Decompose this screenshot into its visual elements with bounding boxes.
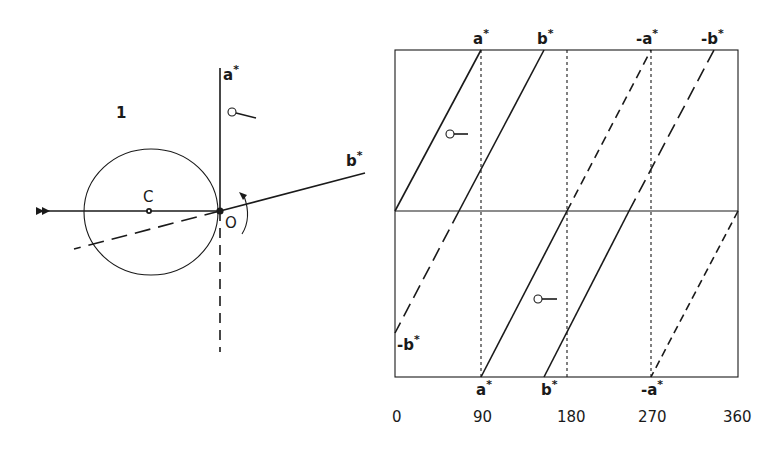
figure-number: 1 [116,104,126,122]
label-origin: O [225,214,237,232]
goniometer-symbol-icon [228,108,256,118]
x-tick-270: 270 [638,408,667,426]
goniometer-symbol-lower-icon [534,295,557,303]
goniometer-symbol-upper-icon [446,130,468,138]
top-label-a-star: a* [473,27,489,48]
top-label-b-star: b* [537,27,554,48]
left-label-neg-b-star: -b* [397,333,420,354]
x-tick-90: 90 [473,408,492,426]
trace-b-star-lower [395,211,459,333]
b-star-axis-negative [74,211,220,249]
b-star-axis [220,173,365,211]
origin-point [216,207,223,214]
top-label-neg-b-star: -b* [701,27,724,48]
x-tick-0: 0 [392,408,402,426]
trace-a-star-lower [481,211,567,377]
right-panel: a* b* -a* -b* -b* a* b* -a* 0 90 180 270… [392,27,752,426]
diagram-canvas: 1 a* b* O C [0,0,781,453]
x-tick-360: 360 [723,408,752,426]
bottom-label-a-star: a* [476,378,492,399]
left-panel: 1 a* b* O C [36,63,365,352]
bottom-label-neg-a-star: -a* [641,378,663,399]
x-tick-180: 180 [557,408,586,426]
trace-a-star-upper [395,50,481,211]
rotation-arrow-icon [242,196,248,234]
top-label-neg-a-star: -a* [636,27,658,48]
trace-neg-a-star-upper [567,50,651,211]
bottom-label-b-star: b* [541,378,558,399]
trace-neg-b-star-upper [629,50,714,211]
trace-b-star-upper [459,50,544,211]
beam-arrow-icon [36,207,50,215]
label-center: C [143,188,153,206]
trace-neg-a-star-lower [651,211,738,377]
label-b-star: b* [346,149,363,170]
label-a-star: a* [223,63,239,84]
trace-b-star-bottom [544,211,629,377]
